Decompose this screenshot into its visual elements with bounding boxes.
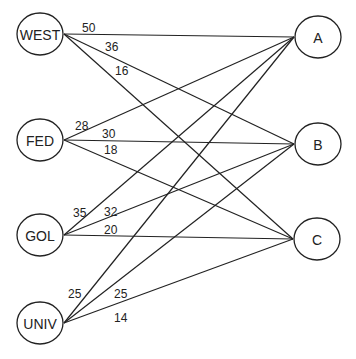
edge-weight-label: 14 (114, 311, 128, 325)
node-univ: UNIV (17, 302, 63, 344)
edge-weight-label: 30 (102, 127, 116, 141)
node-b: B (295, 123, 341, 165)
node-a: A (295, 16, 341, 58)
node-label: WEST (20, 27, 61, 43)
node-gol: GOL (17, 214, 63, 256)
node-west: WEST (17, 13, 63, 55)
node-fed: FED (17, 119, 63, 161)
node-label: A (313, 30, 323, 46)
edge-fed-b (64, 140, 294, 144)
edge-weight-label: 25 (68, 287, 82, 301)
node-label: GOL (25, 228, 55, 244)
edge-weight-label: 25 (114, 287, 128, 301)
node-label: UNIV (23, 316, 57, 332)
edge-univ-b (64, 144, 294, 323)
edge-gol-c (64, 235, 293, 239)
edge-gol-a (64, 37, 294, 235)
edge-weight-label: 36 (105, 40, 119, 54)
node-label: C (312, 232, 322, 248)
network-diagram: 503616283018353220252514 WESTFEDGOLUNIVA… (0, 0, 356, 359)
edge-west-a (64, 34, 294, 37)
edges (64, 34, 294, 323)
node-label: B (313, 137, 322, 153)
edge-weight-label: 28 (75, 119, 89, 133)
node-c: C (294, 218, 340, 260)
edge-line (64, 34, 294, 37)
edge-line (64, 144, 294, 323)
edge-weight-label: 32 (104, 205, 118, 219)
node-label: FED (26, 133, 54, 149)
edge-line (64, 235, 293, 239)
edge-line (64, 37, 294, 235)
edge-weight-label: 50 (82, 21, 96, 35)
edge-weight-label: 18 (104, 143, 118, 157)
edge-line (64, 37, 294, 140)
edge-weight-label: 20 (104, 223, 118, 237)
edge-line (64, 140, 294, 144)
nodes: WESTFEDGOLUNIVABC (17, 13, 341, 344)
edge-line (64, 144, 294, 235)
edge-univ-a (64, 37, 294, 323)
edge-gol-b (64, 144, 294, 235)
edge-fed-a (64, 37, 294, 140)
edge-weight-label: 16 (115, 64, 129, 78)
edge-weight-label: 35 (73, 206, 87, 220)
edge-line (64, 37, 294, 323)
